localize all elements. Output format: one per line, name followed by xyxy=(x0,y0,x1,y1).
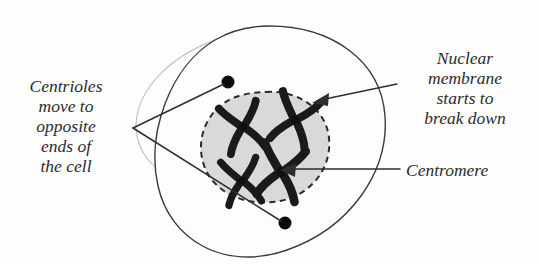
nuclear-membrane-label: Nuclear membrane starts to break down xyxy=(424,48,506,128)
nuclear-membrane-label-line-1: Nuclear xyxy=(436,48,494,68)
nuclear-membrane-label-line-3: starts to xyxy=(437,88,494,108)
mitosis-prophase-diagram: Centrioles move to opposite ends of the … xyxy=(0,0,538,265)
diagram-canvas: Centrioles move to opposite ends of the … xyxy=(0,0,538,265)
centrioles-label-line-4: ends of xyxy=(41,136,93,156)
centrioles-label-line-2: move to xyxy=(39,96,94,116)
centrioles-label-line-3: opposite xyxy=(36,116,96,136)
centromere-label-text: Centromere xyxy=(406,160,489,180)
centrioles-label: Centrioles move to opposite ends of the … xyxy=(30,76,103,176)
centromere-label: Centromere xyxy=(406,160,489,180)
centrioles-label-line-5: the cell xyxy=(40,156,91,176)
nuclear-membrane-label-line-2: membrane xyxy=(428,68,502,88)
centrioles-label-line-1: Centrioles xyxy=(30,76,103,96)
centriole-bottom-dot xyxy=(279,217,292,230)
nuclear-membrane-label-line-4: break down xyxy=(424,108,506,128)
centriole-top-dot xyxy=(222,76,235,89)
